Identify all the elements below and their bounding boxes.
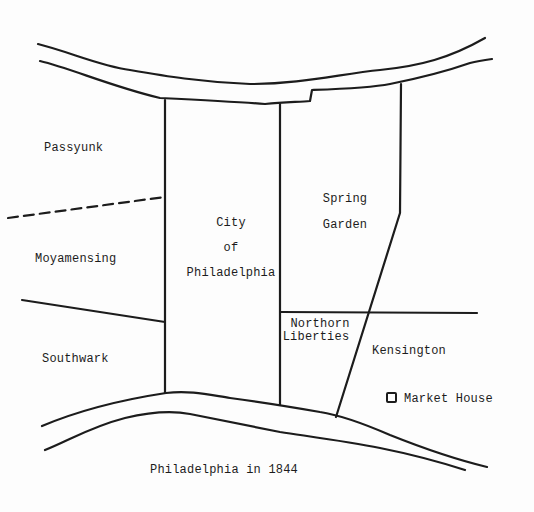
legend-market-house: Market House — [386, 392, 493, 406]
square-marker-icon — [386, 392, 397, 403]
map-title: Philadelphia in 1844 — [150, 464, 298, 477]
district-label-city-line1: City — [216, 217, 246, 230]
district-label-spring-garden-line2: Garden — [323, 219, 367, 232]
district-label-city-line3: Philadelphia — [187, 267, 276, 280]
northern-liberties-north-boundary — [281, 312, 477, 313]
passyunk-moyamensing-dashed-boundary — [8, 197, 165, 218]
district-label-moyamensing: Moyamensing — [35, 253, 116, 266]
lower-river-lower-bank — [45, 412, 465, 470]
district-label-spring-garden-line1: Spring — [323, 193, 367, 206]
district-label-passyunk: Passyunk — [44, 142, 103, 155]
district-label-southwark: Southwark — [42, 353, 109, 366]
district-label-northern-liberties-line2: Liberties — [283, 331, 350, 344]
legend-label: Market House — [404, 392, 493, 406]
district-label-kensington: Kensington — [372, 345, 446, 358]
district-label-city-line2: of — [224, 242, 239, 255]
philadelphia-1844-map: Passyunk Moyamensing Southwark City of P… — [0, 0, 534, 512]
spring-garden-east-boundary — [336, 84, 401, 417]
moyamensing-southwark-boundary — [22, 300, 165, 322]
